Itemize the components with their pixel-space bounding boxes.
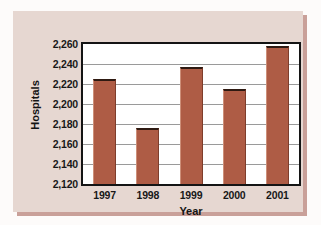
y-tick-label: 2,260 bbox=[35, 39, 78, 50]
x-tick-label: 2001 bbox=[257, 190, 297, 201]
bar bbox=[266, 46, 289, 184]
x-axis-title: Year bbox=[81, 205, 301, 217]
x-tick-label: 1997 bbox=[85, 190, 125, 201]
bar bbox=[136, 128, 159, 184]
bar bbox=[93, 79, 116, 184]
y-tick-label: 2,180 bbox=[35, 119, 78, 130]
plot-frame bbox=[81, 42, 301, 186]
x-tick-label: 2000 bbox=[214, 190, 254, 201]
y-tick-label: 2,220 bbox=[35, 79, 78, 90]
y-axis-tick-labels: 2,2602,2402,2202,2002,1802,1602,1402,120 bbox=[35, 42, 78, 186]
chart-card: Hospitals 2,2602,2402,2202,2002,1802,160… bbox=[13, 11, 303, 212]
y-tick-label: 2,120 bbox=[35, 179, 78, 190]
y-tick-label: 2,200 bbox=[35, 99, 78, 110]
plot-area bbox=[83, 44, 299, 184]
x-tick-label: 1999 bbox=[171, 190, 211, 201]
y-tick-label: 2,240 bbox=[35, 59, 78, 70]
x-tick-label: 1998 bbox=[128, 190, 168, 201]
x-axis-tick-labels: 19971998199920002001 bbox=[81, 190, 301, 204]
y-tick-label: 2,160 bbox=[35, 139, 78, 150]
chart-figure: Hospitals 2,2602,2402,2202,2002,1802,160… bbox=[0, 0, 321, 225]
bar bbox=[223, 89, 246, 184]
bar bbox=[180, 67, 203, 184]
y-tick-label: 2,140 bbox=[35, 159, 78, 170]
